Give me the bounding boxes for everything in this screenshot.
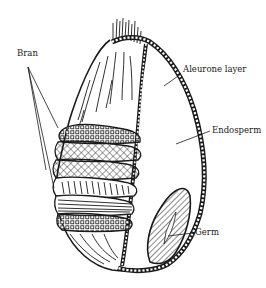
label-bran: Bran (17, 49, 38, 58)
label-endosperm: Endosperm (212, 126, 261, 135)
grain-illustration (0, 0, 266, 288)
label-aleurone-layer: Aleurone layer (183, 65, 246, 74)
label-germ: Germ (195, 228, 219, 237)
grain-diagram: Bran Aleurone layer Endosperm Germ (0, 0, 266, 288)
